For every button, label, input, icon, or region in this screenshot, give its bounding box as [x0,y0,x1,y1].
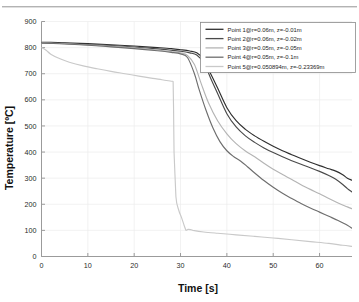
scan-artifact-line-secondary [2,7,357,8]
x-tick-label: 40 [223,261,231,270]
legend-label-3: Point 3@r=0.05m, z=-0.05m [228,45,302,51]
y-tick-label: 100 [25,226,37,235]
temperature-time-line-chart: 0102030405060 01002003004005006007008009… [0,0,359,302]
y-tick-label: 300 [25,174,37,183]
x-tick-label: 60 [316,261,324,270]
y-axis-title: Temperature [ºC] [3,106,15,190]
y-tick-label: 800 [25,43,37,52]
x-tick-label: 10 [84,261,92,270]
x-axis-title: Time [s] [178,282,218,294]
y-tick-label: 900 [25,17,37,26]
x-tick-label: 50 [269,261,277,270]
y-tick-label: 500 [25,122,37,131]
x-tick-label: 30 [177,261,185,270]
legend-label-5: Point 5@r=0.050894m, z=-0.23369m [228,64,325,70]
y-tick-label: 0 [33,252,37,261]
x-tick-label: 20 [130,261,138,270]
y-tick-label: 600 [25,95,37,104]
chart-legend[interactable]: Point 1@r=0.06m, z=-0.01mPoint 2@r=0.06m… [201,23,356,73]
y-tick-label: 400 [25,148,37,157]
legend-label-4: Point 4@r=0.05m, z=-0.1m [228,54,299,60]
x-tick-label: 0 [40,261,44,270]
chart-figure: 0102030405060 01002003004005006007008009… [0,0,359,302]
legend-label-2: Point 2@r=0.06m, z=-0.02m [228,36,302,42]
legend-label-1: Point 1@r=0.06m, z=-0.01m [228,27,302,33]
y-tick-label: 700 [25,69,37,78]
y-tick-label: 200 [25,200,37,209]
